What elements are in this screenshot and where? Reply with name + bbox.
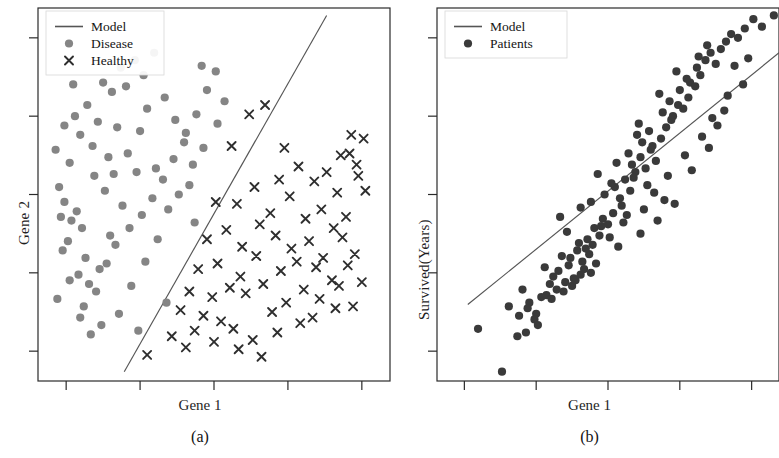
data-point-marker (607, 179, 615, 187)
data-point-marker (671, 200, 679, 208)
data-point-marker (125, 224, 133, 232)
data-point-marker (597, 222, 605, 230)
data-point-marker (162, 299, 170, 307)
data-point-marker (640, 205, 648, 213)
data-point-marker (636, 153, 644, 161)
data-point-marker (132, 168, 140, 176)
data-point-marker (660, 196, 668, 204)
legend-disease-marker-swatch (65, 39, 73, 47)
data-point-marker (66, 276, 74, 284)
panel-b-y-axis-label: Survived(Years) (416, 219, 433, 320)
data-point-marker (600, 190, 608, 198)
data-point-marker (96, 265, 104, 273)
data-point-marker (722, 37, 730, 45)
data-point-marker (561, 278, 569, 286)
data-point-marker (558, 252, 566, 260)
data-point-marker (652, 157, 660, 165)
panel-b-plot: ModelPatients (400, 0, 779, 458)
legend-patients-marker-swatch (464, 39, 472, 47)
data-point-marker (624, 149, 632, 157)
data-point-marker (53, 295, 61, 303)
data-point-marker (621, 175, 629, 183)
data-point-marker (171, 116, 179, 124)
data-point-marker (713, 121, 721, 129)
data-point-marker (708, 114, 716, 122)
data-point-marker (59, 246, 67, 254)
legend-label: Disease (91, 36, 133, 51)
data-point-marker (553, 286, 561, 294)
data-point-marker (94, 118, 102, 126)
data-point-marker (556, 213, 564, 221)
data-point-marker (642, 164, 650, 172)
data-point-marker (52, 146, 60, 154)
data-point-marker (650, 189, 658, 197)
data-point-marker (741, 24, 749, 32)
data-point-marker (770, 11, 778, 19)
panel-a-subcaption: (a) (0, 428, 400, 446)
data-point-marker (705, 144, 713, 152)
data-point-marker (541, 263, 549, 271)
data-point-marker (524, 304, 532, 312)
data-point-marker (87, 330, 95, 338)
data-point-marker (657, 134, 665, 142)
data-point-marker (575, 239, 583, 247)
data-point-marker (730, 62, 738, 70)
data-point-marker (749, 15, 757, 23)
data-point-marker (143, 105, 151, 113)
data-point-marker (684, 93, 692, 101)
data-point-marker (83, 101, 91, 109)
data-point-marker (664, 172, 672, 180)
data-point-marker (618, 202, 626, 210)
data-point-marker (78, 224, 86, 232)
data-point-marker (712, 60, 720, 68)
data-point-marker (161, 93, 169, 101)
data-point-marker (66, 159, 74, 167)
data-point-marker (111, 241, 119, 249)
data-point-marker (505, 302, 513, 310)
data-point-marker (85, 280, 93, 288)
data-point-marker (103, 259, 111, 267)
data-point-marker (578, 258, 586, 266)
data-point-marker (99, 79, 107, 87)
data-point-marker (169, 155, 177, 163)
data-point-marker (633, 131, 641, 139)
data-point-marker (115, 310, 123, 318)
data-point-marker (76, 313, 84, 321)
data-point-marker (213, 120, 221, 128)
data-point-marker (101, 187, 109, 195)
data-point-marker (148, 194, 156, 202)
data-point-marker (648, 142, 656, 150)
data-point-marker (192, 110, 200, 118)
data-point-marker (138, 211, 146, 219)
data-point-marker (582, 244, 590, 252)
data-point-marker (758, 23, 766, 31)
data-point-marker (108, 88, 116, 96)
data-point-marker (57, 213, 65, 221)
data-point-marker (739, 80, 747, 88)
data-point-marker (643, 181, 651, 189)
data-point-marker (619, 218, 627, 226)
data-point-marker (189, 161, 197, 169)
data-point-marker (592, 259, 600, 267)
data-point-marker (515, 312, 523, 320)
data-point-marker (90, 172, 98, 180)
data-point-marker (577, 203, 585, 211)
data-point-marker (127, 282, 135, 290)
data-point-marker (672, 67, 680, 75)
data-point-marker (693, 64, 701, 72)
data-point-marker (547, 295, 555, 303)
data-point-marker (513, 332, 521, 340)
data-point-marker (212, 67, 220, 75)
data-point-marker (595, 231, 603, 239)
figure-container: ModelDiseaseHealthy Gene 2 Gene 1 (a) Mo… (0, 0, 779, 458)
data-point-marker (659, 108, 667, 116)
panel-a-plot: ModelDiseaseHealthy (0, 0, 400, 458)
data-point-marker (73, 207, 81, 215)
data-point-marker (609, 209, 617, 217)
data-point-marker (563, 228, 571, 236)
data-point-marker (676, 86, 684, 94)
data-point-marker (571, 276, 579, 284)
data-point-marker (60, 121, 68, 129)
data-point-marker (554, 267, 562, 275)
data-point-marker (159, 175, 167, 183)
